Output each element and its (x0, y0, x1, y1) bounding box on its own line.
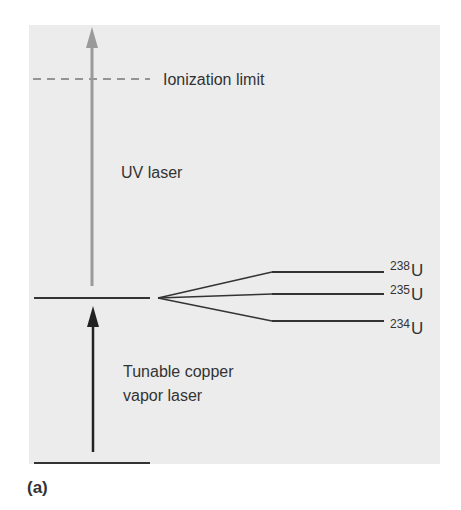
ionization-limit-label: Ionization limit (163, 71, 264, 89)
copper-arrow-head-icon (87, 306, 99, 327)
uv-arrow-head-icon (86, 27, 98, 48)
uv-laser-label: UV laser (121, 164, 182, 182)
fan-line-234 (158, 298, 272, 321)
figure-caption: (a) (27, 478, 48, 498)
copper-laser-label-line1: Tunable copper (123, 363, 234, 381)
copper-laser-label-line2: vapor laser (123, 387, 202, 405)
isotope-label-234: 234U (390, 317, 423, 339)
isotope-label-235: 235U (390, 283, 423, 305)
isotope-label-238: 238U (390, 259, 423, 281)
